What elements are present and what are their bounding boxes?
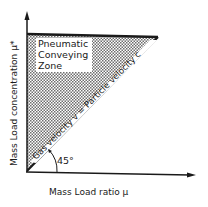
- angle-arc: [49, 150, 57, 172]
- x-axis: [26, 172, 190, 175]
- angle-label: 45°: [57, 155, 74, 166]
- pneumatic-conveying-diagram: Pneumatic Conveying Zone Gas velocity v …: [0, 0, 208, 207]
- x-axis-label: Mass Load ratio μ: [49, 187, 129, 197]
- y-axis-label: Mass Load concentration μ*: [9, 40, 19, 166]
- y-axis-arrow-icon: [25, 11, 30, 20]
- x-axis-arrow-icon: [187, 173, 196, 178]
